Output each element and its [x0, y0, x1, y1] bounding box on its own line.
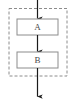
node-b[interactable]: B: [17, 52, 58, 68]
diagram-svg: A B: [0, 0, 76, 99]
node-a-label: A: [34, 22, 41, 32]
node-a[interactable]: A: [17, 19, 58, 35]
diagram-canvas: A B: [0, 0, 76, 99]
node-b-label: B: [34, 55, 40, 65]
